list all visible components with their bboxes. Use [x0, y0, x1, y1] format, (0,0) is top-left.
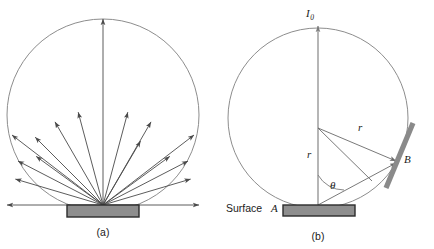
panel-a-caption: (a)	[97, 226, 110, 238]
ray-75	[103, 112, 128, 205]
ray-outer-left-mid	[12, 135, 103, 205]
panel-b-intensity-label: I0	[305, 7, 314, 22]
panel-b: I0 r r θ B Surface A (b)	[226, 7, 413, 242]
panel-b-target-label: B	[404, 153, 411, 165]
panel-b-chord-line	[318, 128, 372, 181]
diagram-svg: (a) I0 r r θ B Surface	[0, 0, 434, 249]
panel-b-radius-to-b	[318, 128, 396, 161]
panel-b-theta-label: θ	[330, 179, 336, 191]
intensity-subscript: 0	[310, 13, 314, 22]
ray-105	[78, 112, 103, 205]
panel-b-surface-label: Surface	[226, 202, 262, 214]
ray-outer-right-mid	[103, 135, 194, 205]
panel-b-surface-name-label: A	[270, 202, 278, 214]
panel-a-surface-bar	[67, 205, 139, 217]
panel-b-surface-bar	[283, 205, 355, 216]
panel-b-caption: (b)	[312, 230, 325, 242]
panel-b-radius-diagonal-label: r	[358, 121, 363, 133]
figure-container: (a) I0 r r θ B Surface	[0, 0, 434, 249]
panel-b-radius-vertical-label: r	[307, 148, 312, 160]
panel-a: (a)	[7, 19, 199, 238]
